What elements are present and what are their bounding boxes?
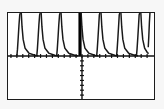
curve-branch-5-descent xyxy=(101,13,118,56)
curve-group xyxy=(17,13,150,56)
curve-branch-6 xyxy=(136,13,139,56)
curve-branch-7 xyxy=(148,13,150,47)
curve-branch-7-descent xyxy=(141,13,149,54)
curve-branch-3-descent xyxy=(61,13,78,56)
plot-frame xyxy=(7,12,155,100)
plot-canvas[interactable] xyxy=(8,13,154,99)
curve-branch-3 xyxy=(57,13,60,56)
curve-branch-1-descent xyxy=(21,13,38,56)
curve-branch-2 xyxy=(37,13,40,56)
curve-branch-5 xyxy=(117,13,120,56)
curve-branch-4-descent xyxy=(81,13,98,56)
curve-branch-6-descent xyxy=(121,13,138,56)
screenshot-root xyxy=(0,0,164,109)
curve-branch-4 xyxy=(97,13,100,56)
curve-branch-1 xyxy=(17,13,20,56)
y-axis-group xyxy=(80,56,84,99)
curve-branch-2-descent xyxy=(41,13,58,56)
